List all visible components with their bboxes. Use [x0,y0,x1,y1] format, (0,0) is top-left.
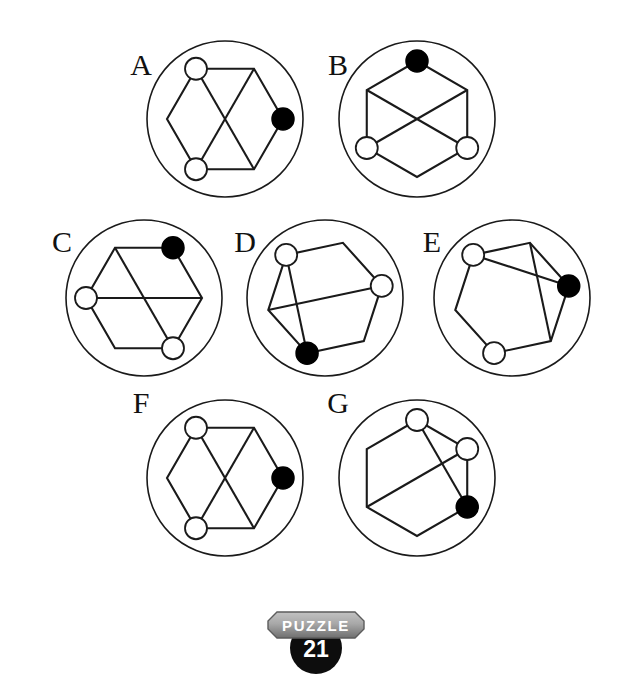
node-open[interactable] [483,342,505,364]
node-open[interactable] [185,58,207,80]
node-open[interactable] [456,137,478,159]
node-filled[interactable] [296,342,318,364]
node-open[interactable] [406,409,428,431]
panel-label-b: B [328,48,348,81]
panel-label-d: D [234,225,256,258]
node-open[interactable] [162,337,184,359]
node-filled[interactable] [558,275,580,297]
node-open[interactable] [275,244,297,266]
node-open[interactable] [371,275,393,297]
node-open[interactable] [462,244,484,266]
panel-label-c: C [52,225,72,258]
node-open[interactable] [356,137,378,159]
node-filled[interactable] [272,467,294,489]
node-filled[interactable] [406,50,428,72]
panel-label-g: G [327,386,349,419]
page-background [0,0,632,678]
panel-label-a: A [130,48,152,81]
puzzle-page: ABCDEFG PUZZLE21 [0,0,632,678]
node-open[interactable] [185,517,207,539]
panel-label-e: E [423,225,441,258]
puzzle-canvas: ABCDEFG PUZZLE21 [0,0,632,678]
node-filled[interactable] [456,496,478,518]
node-filled[interactable] [272,108,294,130]
node-open[interactable] [456,438,478,460]
node-open[interactable] [185,417,207,439]
badge-number-label: 21 [303,636,329,662]
node-filled[interactable] [162,237,184,259]
badge-word-label: PUZZLE [282,617,350,634]
node-open[interactable] [185,158,207,180]
panel-label-f: F [133,386,150,419]
node-open[interactable] [75,287,97,309]
